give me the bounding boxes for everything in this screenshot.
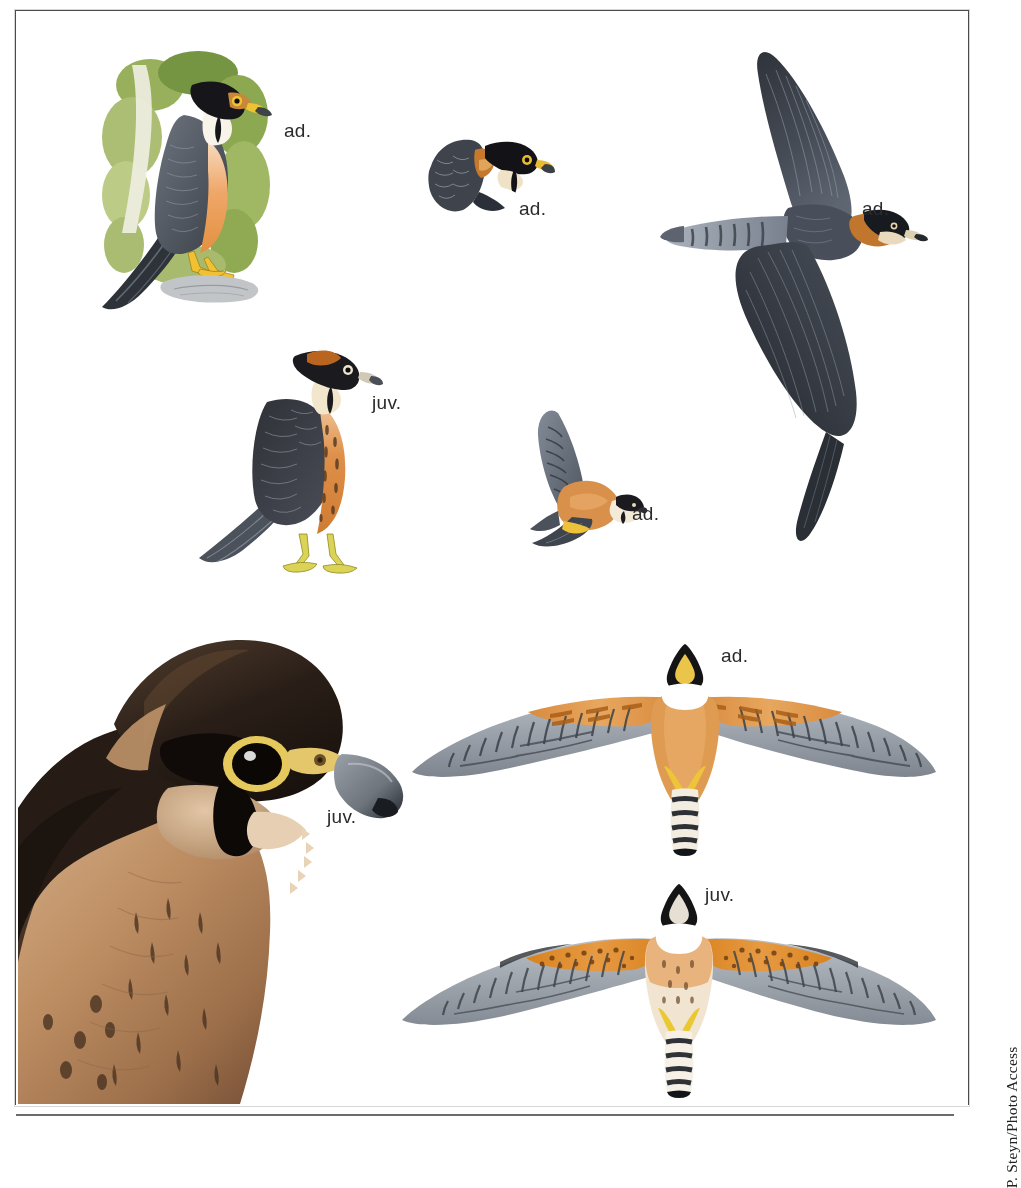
label-underside-juvenile: juv. bbox=[705, 884, 734, 906]
flight-upper-adult-illustration bbox=[640, 40, 942, 585]
label-head-adult: ad. bbox=[519, 198, 546, 220]
photo-credit: P. Steyn/Photo Access bbox=[1003, 1047, 1021, 1188]
label-perched-juvenile: juv. bbox=[372, 392, 401, 414]
perched-adult-illustration bbox=[88, 45, 278, 317]
label-photo-juvenile: juv. bbox=[327, 806, 356, 828]
label-underside-adult: ad. bbox=[721, 645, 748, 667]
label-flight-upper-adult: ad. bbox=[862, 198, 889, 220]
flight-side-adult-illustration bbox=[520, 405, 648, 557]
underside-adult-illustration bbox=[400, 640, 942, 862]
frame-bottom-rule bbox=[16, 1114, 954, 1116]
photo-juvenile bbox=[18, 612, 420, 1104]
underside-juvenile-illustration bbox=[392, 878, 944, 1100]
label-perched-adult: ad. bbox=[284, 120, 311, 142]
perched-juvenile-illustration bbox=[195, 330, 397, 592]
label-flight-side-adult: ad. bbox=[632, 503, 659, 525]
